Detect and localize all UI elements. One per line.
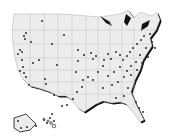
location-dot <box>147 56 149 58</box>
location-dot <box>123 95 125 97</box>
location-dot <box>97 71 99 73</box>
location-dot <box>23 35 25 37</box>
location-dot <box>136 43 138 45</box>
location-dot <box>135 61 137 63</box>
location-dot <box>20 127 22 129</box>
location-dot <box>102 65 104 67</box>
us-locations-map <box>0 0 178 140</box>
location-dot <box>142 111 144 113</box>
location-dot <box>56 64 58 66</box>
location-dot <box>75 71 77 73</box>
location-dot <box>115 51 117 53</box>
location-dot <box>83 54 85 56</box>
location-dot <box>110 58 112 60</box>
location-dot <box>92 79 94 81</box>
location-dot <box>21 51 23 53</box>
location-dot <box>21 59 23 61</box>
location-dot <box>126 70 128 72</box>
location-dot <box>143 35 145 37</box>
location-dot <box>25 32 27 34</box>
location-dot <box>139 54 141 56</box>
location-dot <box>126 55 128 57</box>
location-dot <box>138 107 140 109</box>
location-dot <box>22 66 24 68</box>
location-dot <box>45 83 47 85</box>
location-dot <box>49 117 51 119</box>
location-dot <box>19 49 21 51</box>
location-dot <box>23 72 25 74</box>
location-dot <box>72 98 74 100</box>
location-dot <box>17 120 19 122</box>
location-dot <box>53 94 55 96</box>
alaska <box>14 114 36 132</box>
location-dot <box>113 71 115 73</box>
location-dot <box>140 39 142 41</box>
location-dot <box>43 119 45 121</box>
location-dot <box>154 47 156 49</box>
location-dot <box>149 33 151 35</box>
location-dot <box>103 59 105 61</box>
location-dot <box>24 38 26 40</box>
location-dot <box>129 51 131 53</box>
hawaii <box>43 118 56 128</box>
location-dot <box>90 52 92 54</box>
location-dot <box>30 41 32 43</box>
location-dot <box>82 79 84 81</box>
location-dot <box>77 49 79 51</box>
location-dot <box>132 47 134 49</box>
location-dot <box>107 75 109 77</box>
location-dot <box>51 113 53 115</box>
location-dot <box>151 41 153 43</box>
location-dot <box>46 122 48 124</box>
location-dot <box>102 87 104 89</box>
location-dot <box>63 34 65 36</box>
location-dot <box>76 91 78 93</box>
location-dot <box>141 62 143 64</box>
location-dot <box>66 104 68 106</box>
location-dot <box>136 69 138 71</box>
location-dot <box>119 54 121 56</box>
location-dot <box>77 60 79 62</box>
location-dot <box>111 84 113 86</box>
location-dot <box>135 101 137 103</box>
location-dot <box>81 86 83 88</box>
location-dot <box>51 43 53 45</box>
location-dot <box>145 47 147 49</box>
location-dot <box>25 76 27 78</box>
location-dot <box>17 53 19 55</box>
location-dot <box>87 76 89 78</box>
location-dot <box>123 76 125 78</box>
location-dot <box>127 87 129 89</box>
location-dot <box>41 20 43 22</box>
location-dot <box>130 65 132 67</box>
location-dot <box>44 78 46 80</box>
location-dot <box>130 74 132 76</box>
location-dot <box>32 62 34 64</box>
location-dot <box>95 55 97 57</box>
location-dot <box>61 105 63 107</box>
location-dot <box>38 59 40 61</box>
location-dot <box>107 53 109 55</box>
location-dot <box>115 97 117 99</box>
location-dot <box>122 59 124 61</box>
location-dot <box>19 70 21 72</box>
location-dot <box>119 66 121 68</box>
location-dot <box>28 84 30 86</box>
location-dot <box>53 120 55 122</box>
location-dot <box>26 126 28 128</box>
location-dot <box>92 58 94 60</box>
location-dot <box>117 81 119 83</box>
location-dot <box>35 125 37 127</box>
